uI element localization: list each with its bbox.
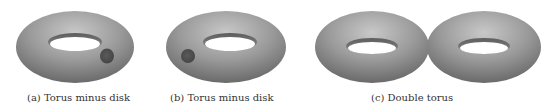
removed-disk-icon (100, 49, 114, 64)
removed-disk-icon (181, 49, 195, 63)
caption-panel-a: (a) Torus minus disk (27, 92, 130, 103)
panel-b-torus (166, 11, 286, 83)
panel-c-double-torus (315, 11, 541, 83)
caption-panel-c: (c) Double torus (371, 92, 453, 103)
caption-panel-b: (b) Torus minus disk (170, 92, 274, 103)
panel-a-torus (16, 11, 134, 83)
